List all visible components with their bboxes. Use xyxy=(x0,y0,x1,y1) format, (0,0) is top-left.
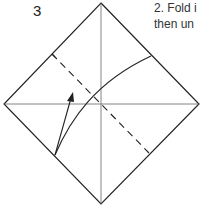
origami-diagram xyxy=(0,0,200,208)
fold-tick-mark xyxy=(52,54,55,57)
paper-outline xyxy=(4,3,199,204)
valley-fold-line xyxy=(52,54,149,153)
fold-arrow-shaft xyxy=(55,98,71,155)
arrow-head-icon xyxy=(67,92,74,102)
